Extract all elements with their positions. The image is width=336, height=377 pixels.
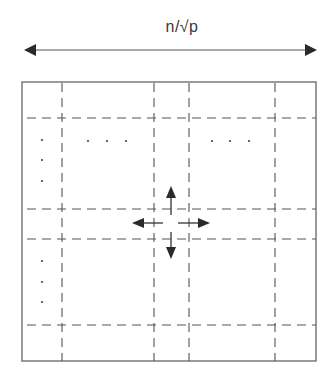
arrow-up-icon [166,186,176,215]
arrow-down-icon [166,232,176,259]
arrow-left-head-icon [24,44,36,56]
grid-outer-border [22,82,316,361]
arrow-left-icon [132,218,163,228]
communication-arrows [132,186,210,259]
ellipsis-dots [41,139,250,303]
arrow-right-head-icon [305,44,317,56]
vertical-partition-lines [62,83,275,361]
arrow-right-icon [178,218,210,228]
horizontal-partition-lines [27,118,316,325]
dimension-arrow [24,44,317,56]
block-decomposition-diagram [0,0,336,377]
